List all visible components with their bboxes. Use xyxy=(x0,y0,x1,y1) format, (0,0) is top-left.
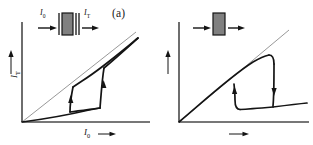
panel-b-axes xyxy=(179,22,309,122)
panel-a-x-axis-label: I0 xyxy=(84,127,90,139)
panel-a-inset-output-subscript: T xyxy=(87,13,90,19)
panel-a-inset-input-label: I0 xyxy=(40,8,45,19)
panel-a-reference-line xyxy=(22,32,136,122)
panel-a-y-axis-label-symbol: I xyxy=(9,75,19,78)
panel-a-y-axis-label: IT xyxy=(9,71,21,78)
panel-a-x-axis-label-subscript: 0 xyxy=(87,132,90,139)
panel-a-inset-input-subscript: 0 xyxy=(43,13,46,19)
panel-a-y-axis-label-subscript: T xyxy=(14,71,21,75)
panel-a-inset-output-label: IT xyxy=(84,8,90,19)
panel-b-x-axis-arrow xyxy=(229,132,249,137)
panel-b-y-axis-arrow xyxy=(165,50,170,74)
panel-a-tag: (a) xyxy=(112,7,125,19)
optical-bistability-figure: (a) IT I0 I0 IT xyxy=(0,0,313,145)
panel-a-plot xyxy=(0,0,156,145)
panel-a-x-axis-arrow xyxy=(98,132,116,137)
panel-b-direction-arrows xyxy=(232,86,277,96)
panel-b: (b) IT I0 I0 IT xyxy=(157,0,313,145)
panel-b-hysteresis-curve xyxy=(179,55,307,122)
panel-a: (a) IT I0 I0 IT xyxy=(0,0,156,145)
panel-b-inset-absorber xyxy=(193,13,245,35)
panel-a-hysteresis-curve xyxy=(22,38,138,122)
panel-b-plot xyxy=(157,0,313,145)
